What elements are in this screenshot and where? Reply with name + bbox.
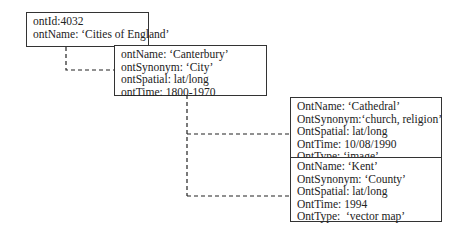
- node-line: ontSpatial: lat/long: [121, 73, 266, 86]
- node-line: ontName: ‘Canterbury’: [121, 48, 266, 61]
- node-line: OntSynonym: ‘County’: [297, 173, 441, 186]
- node-canterbury: ontName: ‘Canterbury’ ontSynonym: ‘City’…: [114, 45, 267, 96]
- node-line: OntSynonym:‘church, religion’: [297, 113, 441, 126]
- node-line: OntName: ‘Kent’: [297, 160, 441, 173]
- node-line: OntName: ‘Cathedral’: [297, 100, 441, 113]
- node-line: OntSpatial: lat/long: [297, 185, 441, 198]
- node-line: OntType: ‘vector map’: [297, 210, 441, 223]
- node-cities-of-england: ontId:4032 ontName: ‘Cities of England’: [26, 12, 149, 47]
- node-cathedral: OntName: ‘Cathedral’ OntSynonym:‘church,…: [290, 97, 442, 158]
- node-line: ontTime: 1800-1970: [121, 86, 266, 99]
- node-line: OntTime: 1994: [297, 198, 441, 211]
- node-line: OntTime: 10/08/1990: [297, 138, 441, 151]
- node-kent: OntName: ‘Kent’ OntSynonym: ‘County’ Ont…: [290, 157, 442, 222]
- node-line: ontName: ‘Cities of England’: [33, 28, 148, 41]
- node-line: OntSpatial: lat/long: [297, 125, 441, 138]
- node-line: ontId:4032: [33, 15, 148, 28]
- node-line: ontSynonym: ‘City’: [121, 61, 266, 74]
